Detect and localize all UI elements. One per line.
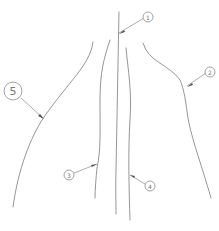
callout-1-label: 1 (146, 14, 150, 21)
callout-5: 5 (4, 82, 44, 119)
callout-4: 4 (130, 175, 155, 191)
callout-3-label: 3 (67, 172, 71, 179)
callout-5-label: 5 (10, 85, 17, 98)
callout-1: 1 (119, 12, 153, 34)
callout-4-label: 4 (148, 183, 152, 190)
center-line-contour (116, 12, 119, 214)
right-shoulder-contour (143, 43, 211, 198)
left-inner-contour (95, 40, 110, 198)
right-inner-contour (126, 48, 131, 220)
callout-2-label: 2 (208, 69, 212, 76)
left-shoulder-contour (13, 42, 93, 207)
figure-drawing: 1 2 3 4 5 (0, 0, 219, 231)
callout-3: 3 (64, 164, 97, 180)
callout-2: 2 (187, 67, 215, 87)
